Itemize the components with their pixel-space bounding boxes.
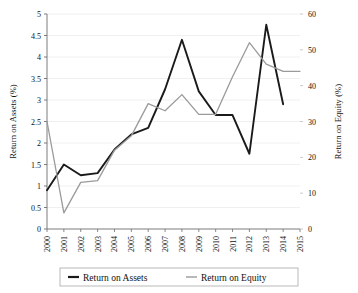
x-axis-tick-label: 2003 xyxy=(94,236,103,252)
left-axis-tick-label: 4 xyxy=(37,53,41,62)
x-axis-tick-label: 2006 xyxy=(144,236,153,252)
x-axis-tick-label: 2007 xyxy=(161,236,170,252)
left-axis-tick-label: 0 xyxy=(37,225,41,234)
x-axis-tick-label: 2012 xyxy=(245,236,254,252)
right-axis-tick-label: 40 xyxy=(308,82,316,91)
left-axis-tick-label: 2.5 xyxy=(31,118,41,127)
x-axis-tick-label: 2015 xyxy=(296,236,305,252)
right-axis-tick-label: 20 xyxy=(308,153,316,162)
x-axis-tick-label: 2013 xyxy=(262,236,271,252)
x-axis-tick-label: 2009 xyxy=(195,236,204,252)
chart-legend: Return on AssetsReturn on Equity xyxy=(60,268,298,286)
x-axis-tick-label: 2011 xyxy=(229,236,238,252)
right-axis-tick-label: 60 xyxy=(308,10,316,19)
x-axis-tick-label: 2002 xyxy=(77,236,86,252)
x-axis-tick-label: 2004 xyxy=(110,236,119,252)
right-axis-tick-label: 10 xyxy=(308,189,316,198)
right-axis-title: Return on Equity (%) xyxy=(333,84,343,159)
left-axis-tick-label: 3 xyxy=(37,96,41,105)
left-axis-tick-label: 1.5 xyxy=(31,161,41,170)
x-axis-tick-label: 2014 xyxy=(279,236,288,252)
left-axis-tick-label: 3.5 xyxy=(31,75,41,84)
legend-label-1: Return on Equity xyxy=(201,273,267,283)
left-axis-tick-label: 4.5 xyxy=(31,32,41,41)
left-axis-tick-label: 5 xyxy=(37,10,41,19)
x-axis-tick-label: 2005 xyxy=(127,236,136,252)
right-axis-tick-label: 50 xyxy=(308,46,316,55)
x-axis-tick-label: 2001 xyxy=(60,236,69,252)
dual-axis-line-chart: 00.511.522.533.544.55 0102030405060 2000… xyxy=(0,0,358,293)
x-axis-tick-label: 2008 xyxy=(178,236,187,252)
x-axis-tick-label: 2000 xyxy=(43,236,52,252)
right-axis-tick-label: 30 xyxy=(308,118,316,127)
right-axis-tick-label: 0 xyxy=(308,225,312,234)
left-axis-tick-label: 1 xyxy=(37,182,41,191)
x-axis-tick-label: 2010 xyxy=(212,236,221,252)
left-axis-tick-label: 0.5 xyxy=(31,204,41,213)
chart-figure: 00.511.522.533.544.55 0102030405060 2000… xyxy=(0,0,358,293)
left-axis-title: Return on Assets (%) xyxy=(8,84,18,159)
left-axis-tick-label: 2 xyxy=(37,139,41,148)
legend-label-0: Return on Assets xyxy=(83,273,148,283)
